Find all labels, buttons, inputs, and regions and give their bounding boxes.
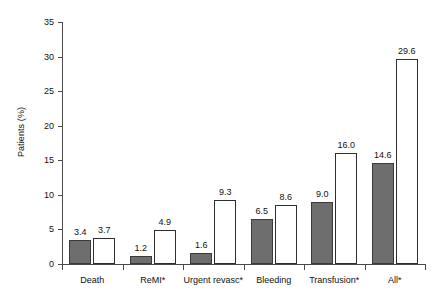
- y-tick-label: 25: [36, 87, 54, 96]
- bar-value-label: 9.3: [209, 188, 241, 197]
- bar-series-2-1: [154, 230, 176, 264]
- bar-value-label: 14.6: [367, 151, 399, 160]
- bar-value-label: 16.0: [330, 141, 362, 150]
- bar-value-label: 9.0: [306, 190, 338, 199]
- x-tick-mark: [304, 265, 305, 270]
- bar-series-2-2: [214, 200, 236, 264]
- bar-series-1-0: [69, 240, 91, 264]
- y-tick-label: 5: [36, 225, 54, 234]
- bar-series-1-1: [130, 256, 152, 264]
- bar-series-2-0: [93, 238, 115, 264]
- y-tick-label: 30: [36, 52, 54, 61]
- bar-value-label: 1.6: [185, 241, 217, 250]
- bar-value-label: 3.7: [88, 226, 120, 235]
- bar-value-label: 6.5: [246, 207, 278, 216]
- bar-value-label: 29.6: [391, 47, 423, 56]
- y-tick-label: 10: [36, 190, 54, 199]
- bar-series-2-4: [335, 153, 357, 264]
- y-tick-label: 20: [36, 121, 54, 130]
- bar-series-1-5: [372, 163, 394, 264]
- bar-series-1-3: [251, 219, 273, 264]
- bar-value-label: 4.9: [149, 218, 181, 227]
- x-tick-mark: [244, 265, 245, 270]
- x-tick-mark: [62, 265, 63, 270]
- bar-chart: Patients (%) 05101520253035 3.43.71.24.9…: [0, 0, 447, 306]
- x-tick-mark: [425, 265, 426, 270]
- bar-series-2-5: [396, 59, 418, 264]
- x-tick-mark: [365, 265, 366, 270]
- y-tick-label: 15: [36, 156, 54, 165]
- y-axis-line: [62, 22, 63, 265]
- y-tick-label: 35: [36, 18, 54, 27]
- category-label: All*: [357, 276, 434, 285]
- bar-value-label: 8.6: [270, 193, 302, 202]
- y-axis-title-text: Patients (%): [16, 107, 26, 157]
- bar-series-1-2: [190, 253, 212, 264]
- bar-value-label: 1.2: [125, 244, 157, 253]
- y-axis-title: Patients (%): [10, 0, 32, 264]
- bar-series-2-3: [275, 205, 297, 264]
- bar-series-1-4: [311, 202, 333, 264]
- x-tick-mark: [123, 265, 124, 270]
- x-tick-mark: [183, 265, 184, 270]
- y-tick-label: 0: [36, 260, 54, 269]
